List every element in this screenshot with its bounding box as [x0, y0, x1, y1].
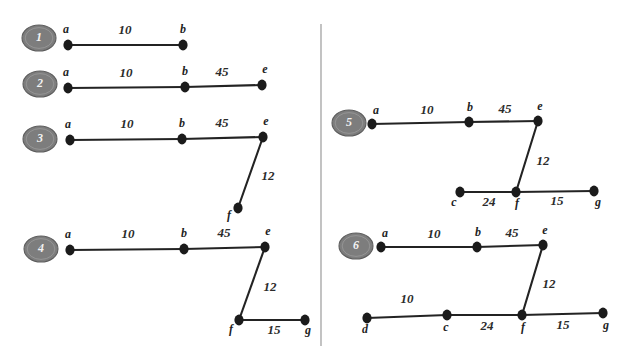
edge-e-f	[516, 121, 538, 192]
edge-a-b	[372, 122, 469, 124]
edge-weight-b-e: 45	[498, 101, 513, 116]
edge-b-e	[469, 121, 538, 122]
edge-weight-e-f: 12	[537, 153, 551, 168]
node-label-b: b	[475, 225, 481, 239]
edge-weight-f-g: 15	[551, 193, 565, 208]
edge-weight-b-e: 45	[215, 64, 230, 79]
node-c	[455, 187, 464, 198]
node-b	[179, 244, 188, 255]
edge-f-g	[522, 313, 603, 315]
node-f	[234, 315, 243, 326]
node-label-b: b	[179, 116, 185, 130]
node-label-e: e	[262, 62, 268, 76]
panel-1: 10ab1	[22, 22, 188, 51]
edge-weight-c-f: 24	[482, 194, 497, 209]
edge-weight-a-b: 10	[119, 22, 133, 37]
panels-layer: 10ab11045abe2104512abef310451215abefg410…	[22, 22, 609, 337]
node-label-e: e	[542, 223, 548, 237]
node-c	[442, 310, 451, 321]
panel-3: 104512abef3	[23, 114, 275, 222]
node-label-b: b	[181, 226, 187, 240]
node-label-d: d	[362, 322, 369, 336]
node-label-a: a	[65, 117, 71, 131]
edge-weight-a-b: 10	[421, 102, 435, 117]
node-label-e: e	[537, 99, 543, 113]
node-f	[517, 310, 526, 321]
step-badge-number-1: 1	[36, 30, 42, 44]
node-label-b: b	[467, 100, 473, 114]
panel-2: 1045abe2	[23, 62, 268, 97]
graph-illustration: 10ab11045abe2104512abef310451215abefg410…	[0, 0, 630, 360]
edge-f-g	[516, 191, 594, 192]
node-label-e: e	[263, 114, 269, 128]
node-label-f: f	[229, 322, 234, 336]
node-b	[472, 242, 481, 253]
edge-b-e	[477, 245, 543, 247]
step-badge-number-6: 6	[353, 238, 359, 252]
panel-4: 10451215abefg4	[24, 224, 311, 337]
edge-b-e	[185, 85, 262, 87]
edge-weight-e-f: 12	[543, 276, 557, 291]
node-label-f: f	[521, 320, 526, 334]
edge-e-f	[238, 137, 263, 208]
edge-a-b	[70, 249, 184, 250]
edge-e-f	[239, 247, 265, 320]
node-label-a: a	[373, 103, 379, 117]
edge-b-e	[182, 137, 263, 139]
edge-d-c	[367, 315, 447, 318]
edge-weight-f-g: 15	[268, 322, 282, 337]
node-label-b: b	[180, 22, 186, 36]
node-label-b: b	[182, 64, 188, 78]
panel-5: 1045122415abecfg5	[332, 99, 601, 210]
edge-weight-f-g: 15	[557, 317, 571, 332]
node-a	[65, 135, 74, 146]
node-label-g: g	[602, 318, 609, 332]
node-a	[63, 83, 72, 94]
edge-weight-d-c: 10	[401, 291, 415, 306]
node-g	[598, 308, 607, 319]
node-a	[63, 40, 72, 51]
step-badge-number-2: 2	[36, 76, 43, 90]
edge-weight-e-f: 12	[262, 168, 276, 183]
node-a	[367, 119, 376, 130]
node-label-f: f	[515, 196, 520, 210]
edge-e-f	[522, 245, 543, 315]
node-e	[260, 242, 269, 253]
edge-weight-a-b: 10	[122, 226, 136, 241]
node-e	[538, 240, 547, 251]
node-e	[533, 116, 542, 127]
edge-weight-e-f: 12	[264, 279, 278, 294]
node-a	[65, 245, 74, 256]
node-label-a: a	[63, 65, 69, 79]
node-b	[464, 117, 473, 128]
edge-a-b	[68, 87, 185, 88]
node-label-f: f	[227, 208, 232, 222]
node-b	[177, 134, 186, 145]
panel-6: 104512102415abedcfg6	[339, 223, 609, 336]
edge-a-b	[70, 139, 182, 140]
edge-b-e	[184, 247, 265, 249]
figure-canvas: 10ab11045abe2104512abef310451215abefg410…	[0, 0, 630, 360]
step-badge-number-5: 5	[346, 115, 352, 129]
node-label-a: a	[382, 226, 388, 240]
edge-weight-c-f: 24	[480, 318, 495, 333]
node-b	[180, 82, 189, 93]
node-label-c: c	[443, 320, 449, 334]
step-badge-number-4: 4	[37, 241, 44, 255]
node-f	[233, 203, 242, 214]
node-label-a: a	[63, 22, 69, 36]
edge-weight-b-e: 45	[217, 225, 232, 240]
edge-weight-b-e: 45	[505, 225, 520, 240]
edge-weight-a-b: 10	[120, 65, 134, 80]
node-label-e: e	[265, 224, 271, 238]
edge-weight-b-e: 45	[215, 115, 230, 130]
node-a	[376, 242, 385, 253]
node-b	[178, 40, 187, 51]
edge-weight-a-b: 10	[121, 116, 135, 131]
node-label-g: g	[594, 195, 601, 209]
node-label-a: a	[65, 227, 71, 241]
node-label-c: c	[451, 195, 457, 209]
edge-weight-a-b: 10	[428, 226, 442, 241]
node-label-g: g	[304, 323, 311, 337]
node-e	[258, 132, 267, 143]
